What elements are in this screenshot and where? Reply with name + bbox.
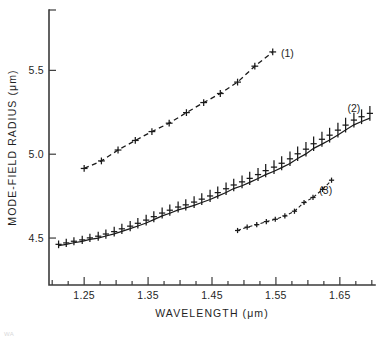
x-tick-label: 1.45: [201, 289, 223, 301]
x-tick-label: 1.65: [329, 289, 351, 301]
series-1: [81, 49, 276, 172]
y-tick-label: 5.5: [29, 64, 45, 76]
series-label-1: (1): [281, 47, 294, 59]
y-axis-title: MODE-FIELD RADIUS (μm): [6, 69, 18, 225]
axis-tick-labels: 4.55.05.51.251.351.451.551.65: [29, 64, 351, 301]
series-label-3: (3): [319, 184, 332, 196]
axis-lines: [49, 10, 375, 285]
series-label-2: (2): [347, 102, 360, 114]
x-tick-label: 1.35: [137, 289, 159, 301]
x-tick-label: 1.55: [265, 289, 287, 301]
axis-titles: WAVELENGTH (μm)MODE-FIELD RADIUS (μm): [6, 69, 269, 319]
series-1-line: [84, 52, 273, 169]
y-tick-label: 5.0: [29, 148, 45, 160]
series-2-line: [59, 118, 370, 245]
x-tick-label: 1.25: [73, 289, 95, 301]
series-labels: (1)(2)(3): [281, 47, 360, 197]
data-series: [55, 49, 372, 249]
axes: [49, 10, 375, 285]
series-3-line: [238, 180, 332, 230]
figure-caption-fragment: WA: [4, 331, 14, 337]
x-axis-title: WAVELENGTH (μm): [155, 307, 269, 319]
series-2: [55, 106, 372, 248]
figure-container: 4.55.05.51.251.351.451.551.65 (1)(2)(3) …: [0, 0, 389, 338]
mode-field-radius-chart: 4.55.05.51.251.351.451.551.65 (1)(2)(3) …: [0, 0, 389, 338]
axis-ticks: [49, 70, 372, 285]
y-tick-label: 4.5: [29, 232, 45, 244]
